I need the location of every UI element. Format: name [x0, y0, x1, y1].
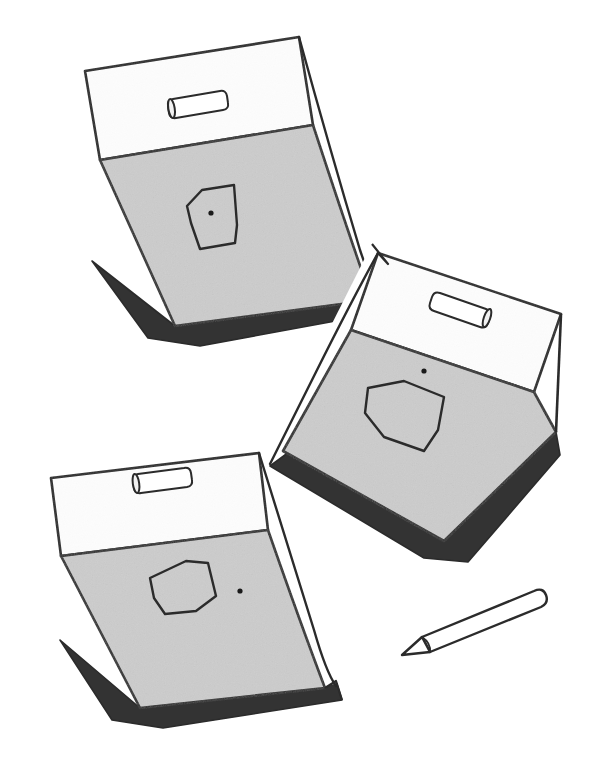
notepad-3-dot-marker: [237, 588, 242, 593]
illustration-canvas: [0, 0, 607, 772]
notepads-illustration: [0, 0, 607, 772]
notepad-2-dot-marker: [421, 368, 426, 373]
notepad-1-dot-marker: [208, 210, 213, 215]
